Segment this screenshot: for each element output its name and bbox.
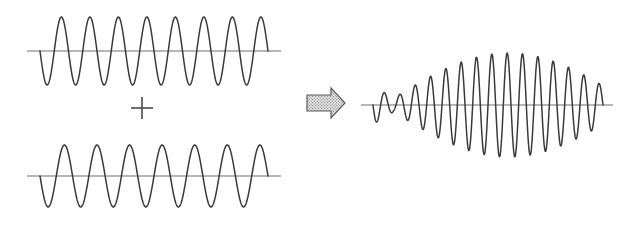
plus-operator-icon <box>131 97 153 119</box>
panel-resultant-beat-wave <box>361 53 613 157</box>
wave-superposition-figure <box>0 0 622 230</box>
figure-canvas <box>0 0 622 230</box>
implies-arrow-icon <box>307 88 345 118</box>
panel-first-input-wave <box>27 17 281 85</box>
panel-second-input-wave <box>27 145 281 207</box>
